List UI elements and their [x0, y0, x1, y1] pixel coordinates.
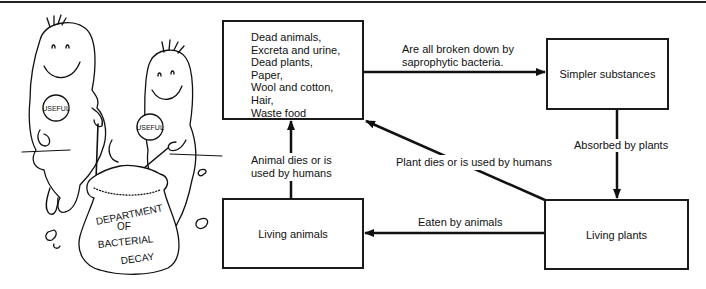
- plant-dies-label-text: Plant dies or is used by humans: [396, 156, 552, 168]
- breakdown-label-line1: Are all broken down by: [402, 43, 514, 56]
- dead-matter-box: Dead animals, Excreta and urine, Dead pl…: [222, 20, 364, 120]
- dead-matter-item: Wool and cotton,: [251, 81, 333, 94]
- plant-dies-label: Plant dies or is used by humans: [394, 155, 554, 170]
- living-animals-label: Living animals: [258, 228, 328, 240]
- dead-matter-item: Dead animals,: [251, 31, 321, 44]
- breakdown-label-line2: saprophytic bacteria.: [402, 56, 514, 69]
- animal-dies-label-line1: Animal dies or is: [251, 154, 332, 167]
- dead-matter-item: Waste food: [251, 107, 306, 120]
- living-plants-box: Living plants: [544, 199, 689, 270]
- animal-dies-label-line2: used by humans: [251, 167, 332, 180]
- simpler-substances-box: Simpler substances: [546, 38, 669, 110]
- simpler-substances-label: Simpler substances: [560, 68, 656, 80]
- eaten-label-text: Eaten by animals: [418, 216, 502, 228]
- absorbed-label-text: Absorbed by plants: [574, 139, 668, 151]
- dead-matter-item: Dead plants,: [251, 56, 313, 69]
- absorbed-label: Absorbed by plants: [573, 139, 669, 152]
- living-animals-box: Living animals: [222, 198, 364, 269]
- living-plants-label: Living plants: [586, 229, 647, 241]
- dead-matter-item: Excreta and urine,: [251, 44, 340, 57]
- eaten-label: Eaten by animals: [418, 216, 502, 229]
- dead-matter-item: Paper,: [251, 69, 283, 82]
- dead-matter-item: Hair,: [251, 94, 274, 107]
- breakdown-label: Are all broken down by saprophytic bacte…: [402, 43, 514, 69]
- animal-dies-label: Animal dies or is used by humans: [251, 153, 332, 181]
